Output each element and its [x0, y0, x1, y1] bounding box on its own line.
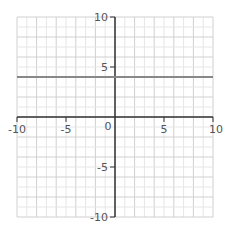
y-tick-label: -5 — [97, 161, 108, 174]
y-tick-label: 5 — [101, 61, 108, 74]
origin-label: 0 — [105, 120, 112, 133]
coordinate-plane: -10 -5 0 5 10 10 5 -5 -10 — [0, 0, 231, 231]
y-tick-label: -10 — [90, 211, 108, 224]
x-tick-label: -10 — [8, 123, 26, 136]
x-tick-label: -5 — [61, 123, 72, 136]
x-tick-label: 10 — [209, 123, 223, 136]
x-tick-label: 5 — [161, 123, 168, 136]
y-tick-label: 10 — [94, 11, 108, 24]
